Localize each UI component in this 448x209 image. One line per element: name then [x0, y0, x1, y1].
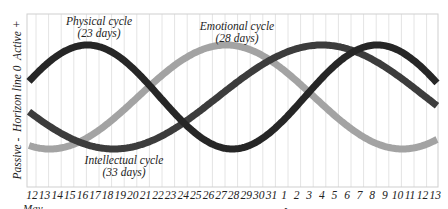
x-tick-label: 5 — [332, 189, 338, 201]
x-tick-label: 21 — [140, 189, 152, 201]
biorhythm-chart: Physical cycle (23 days) Emotional cycle… — [0, 0, 448, 209]
x-tick-label: 14 — [51, 189, 63, 201]
intellectual-cycle-period: (33 days) — [102, 166, 145, 179]
x-tick-label: 19 — [114, 189, 126, 201]
x-tick-label: 31 — [265, 189, 278, 201]
x-tick-label: 12 — [26, 189, 38, 201]
x-axis-month-labels: MayJune — [22, 202, 303, 209]
x-tick-label: 16 — [77, 189, 89, 201]
x-axis-day-labels: 1213141516171819202122232425262728293031… — [26, 189, 441, 201]
x-tick-label: 12 — [417, 189, 429, 201]
y-axis-label: Passive - Horizon line 0 Active + — [11, 21, 23, 181]
x-tick-label: 18 — [102, 189, 114, 201]
physical-cycle-period: (23 days) — [77, 27, 120, 40]
emotional-cycle-period: (28 days) — [215, 32, 258, 45]
x-tick-label: 22 — [152, 189, 164, 201]
x-tick-label: 27 — [215, 189, 228, 201]
month-label: June — [282, 205, 303, 209]
x-tick-label: 6 — [344, 189, 350, 201]
x-tick-label: 8 — [369, 189, 375, 201]
x-tick-label: 26 — [203, 189, 215, 201]
x-tick-label: 3 — [305, 189, 312, 201]
x-tick-label: 13 — [429, 189, 441, 201]
x-tick-label: 15 — [64, 189, 76, 201]
x-tick-label: 11 — [405, 189, 416, 201]
x-tick-label: 4 — [319, 189, 325, 201]
x-tick-label: 23 — [165, 189, 177, 201]
x-tick-label: 28 — [228, 189, 240, 201]
x-tick-label: 17 — [89, 189, 102, 201]
x-tick-label: 29 — [240, 189, 252, 201]
x-tick-label: 24 — [177, 189, 189, 201]
x-tick-label: 7 — [357, 189, 364, 201]
x-tick-label: 20 — [127, 189, 139, 201]
x-tick-label: 30 — [252, 189, 265, 201]
x-tick-label: 1 — [281, 189, 287, 201]
x-tick-label: 13 — [39, 189, 51, 201]
month-label: May — [22, 202, 43, 209]
x-tick-label: 2 — [294, 189, 300, 201]
x-tick-label: 9 — [382, 189, 388, 201]
x-tick-label: 10 — [392, 189, 404, 201]
x-tick-label: 25 — [190, 189, 202, 201]
